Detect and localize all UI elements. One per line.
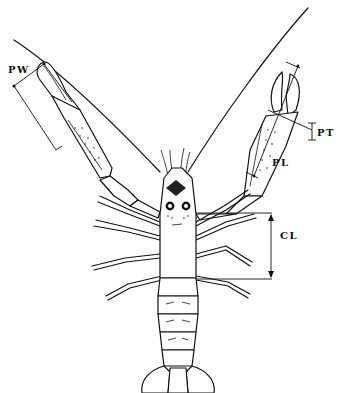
- abdomen: [158, 278, 198, 366]
- left-claw: [37, 62, 160, 218]
- crayfish-diagram: PW PL PT CL: [0, 0, 345, 393]
- cl-measurement: CL: [196, 213, 298, 279]
- pt-label: PT: [317, 127, 335, 138]
- carapace: [160, 168, 196, 278]
- tail-fan: [142, 366, 215, 393]
- left-eye-icon: [167, 203, 173, 209]
- cl-label: CL: [280, 230, 298, 241]
- pl-label: PL: [272, 157, 290, 168]
- right-eye-icon: [183, 203, 189, 209]
- pw-label: PW: [8, 64, 30, 75]
- right-claw: [196, 72, 299, 220]
